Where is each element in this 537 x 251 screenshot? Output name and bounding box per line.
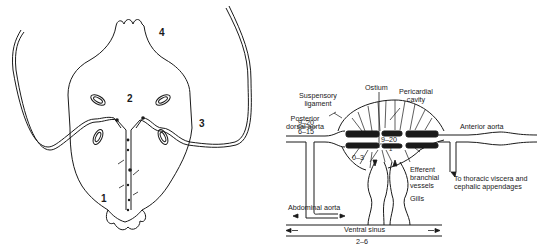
gill-right-outer [390,162,394,225]
pericardial-dome-upper [338,100,444,131]
label-efferent-branchial-vessels: Efferent branchial vessels [410,166,439,190]
heart-segment-upper-right [406,131,438,137]
region-label-2: 2 [127,93,133,104]
posterior-aorta-upper [286,131,345,136]
region-label-4: 4 [159,27,165,38]
suspensory-ligaments [352,100,432,131]
region-label-3: 3 [199,118,205,129]
label-ventral-sinus: Ventral sinus [344,226,385,234]
arrow-abdominal-right [340,214,345,218]
label-anterior-aorta: Anterior aorta [460,123,504,131]
posterior-aorta-lower [286,142,345,147]
crustacean-heart-illustration [0,0,537,251]
diagram-canvas: 1 2 3 4 Suspensory ligament Ostium Peric… [0,0,537,251]
pressure-posterior-lower: 6–15 [298,128,314,136]
pressure-pericardial: 0–3 [352,154,364,162]
heart-segment-lower-right [406,143,438,148]
ostium-lower-left [91,128,105,146]
thoracic-artery [450,142,456,172]
label-pericardial-cavity: Pericardial cavity [399,88,433,104]
label-abdominal-aorta: Abdominal aorta [288,204,340,212]
label-ostium: Ostium [365,84,388,92]
heart-segment-lower-left [346,143,379,148]
heart-anterior-lobes [116,20,144,27]
anterior-aorta-lower [438,142,537,145]
label-thoracic-viscera: To thoracic viscera and cephalic appenda… [454,175,528,191]
label-gills: Gills [410,195,424,203]
arrow-ventral-left [286,229,291,233]
ostium-upper-right [154,93,172,108]
heart-segment-upper-left [346,131,379,137]
arrow-ventral-right [435,229,440,233]
pressure-posterior-upper: 9–20 [298,119,314,127]
heart-outline [68,26,192,222]
region-label-1: 1 [101,193,107,204]
pressure-heart-lower: 1 [389,145,392,153]
arrow-efferent-down-right [393,160,397,166]
ostium-upper-left [89,93,107,108]
pressure-ventral-sinus: 2–6 [356,238,368,246]
arrow-abdominal-left [293,214,298,218]
anterior-aorta-upper [438,132,537,135]
gill-left-outer [368,162,375,225]
pressure-heart-upper: 9–20 [381,136,397,144]
label-suspensory-ligament: Suspensory ligament [299,92,337,108]
